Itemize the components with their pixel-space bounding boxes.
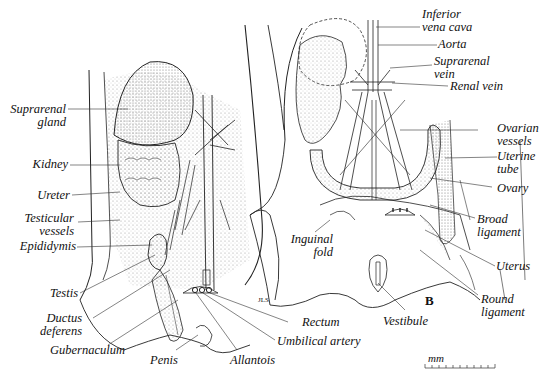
label-uterus: Uterus [496,260,530,273]
label-ovary: Ovary [497,182,528,195]
label-inguinal-fold: Inguinalfold [265,233,333,259]
label-suprarenal-vein: Suprarenalvein [434,55,490,81]
label-epididymis: Epididymis [0,240,76,253]
male-specimen [80,25,284,353]
label-kidney: Kidney [0,158,68,171]
label-inferior-vena-cava: Inferiorvena cava [422,8,472,34]
label-allantois: Allantois [230,354,275,367]
label-ovarian-vessels: Ovarianvessels [497,122,539,148]
label-ureter: Ureter [0,189,70,202]
label-broad-ligament: Broadligament [477,213,521,239]
label-testicular-vessels: Testicularvessels [0,212,74,238]
label-round-ligament: Roundligament [481,293,525,319]
label-uterine-tube: Uterinetube [497,150,535,176]
label-ductus-deferens: Ductusdeferens [0,312,82,338]
label-penis: Penis [150,354,178,367]
label-renal-vein: Renal vein [450,80,503,93]
panel-label: B [425,294,434,307]
scale-unit: mm [428,352,444,365]
label-gubernaculum: Gubernaculum [50,344,125,357]
label-rectum: Rectum [302,316,339,329]
label-suprarenal-gland: Suprarenalgland [0,103,66,129]
label-aorta: Aorta [438,38,466,51]
label-umbilical-artery: Umbilical artery [277,335,361,348]
label-testis: Testis [0,287,78,300]
label-vestibule: Vestibule [383,315,428,328]
artist-signature: JLS [258,294,269,307]
